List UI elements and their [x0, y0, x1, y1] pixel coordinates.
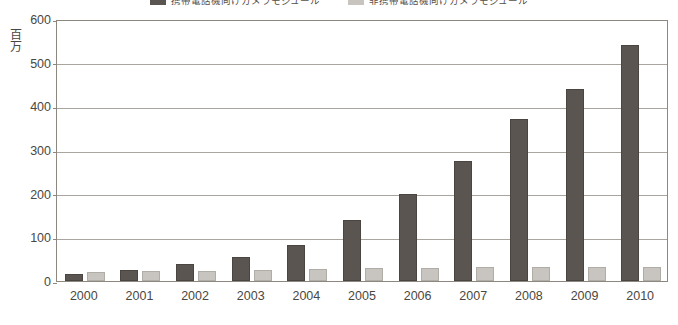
bar-non-mobile: [254, 270, 272, 281]
bar-group: [391, 21, 447, 281]
legend-swatch-icon: [348, 0, 364, 5]
bar-non-mobile: [588, 267, 606, 281]
legend-item-series-1: 携帯電話機向けカメラモジュール: [150, 0, 320, 6]
x-axis-tick-label: 2005: [334, 288, 390, 304]
y-axis-tick-label: 200: [17, 189, 51, 201]
bar-non-mobile: [365, 268, 383, 281]
y-axis-tick-label: 300: [17, 145, 51, 157]
bar-mobile: [287, 245, 305, 281]
bar-mobile: [510, 119, 528, 281]
chart-legend: 携帯電話機向けカメラモジュール 非携帯電話機向けカメラモジュール: [0, 0, 678, 6]
bar-group: [502, 21, 558, 281]
x-axis-tick-label: 2006: [390, 288, 446, 304]
x-axis-tick-label: 2003: [223, 288, 279, 304]
x-axis-ticks: 2000200120022003200420052006200720082009…: [56, 288, 668, 312]
y-axis-tick-label: 0: [17, 276, 51, 288]
y-axis-tick-label: 400: [17, 101, 51, 113]
bar-mobile: [65, 274, 83, 281]
bar-mobile: [232, 257, 250, 281]
y-axis-tick-label: 100: [17, 232, 51, 244]
bar-group: [113, 21, 169, 281]
bar-non-mobile: [532, 267, 550, 281]
bar-non-mobile: [421, 268, 439, 281]
y-axis-tick-label: 500: [17, 58, 51, 70]
x-axis-tick-label: 2002: [167, 288, 223, 304]
bar-group: [558, 21, 614, 281]
plot-area: 0100200300400500600: [56, 20, 668, 282]
bar-non-mobile: [142, 271, 160, 281]
bar-mobile: [454, 161, 472, 281]
legend-swatch-icon: [150, 0, 166, 5]
x-axis-tick-label: 2007: [445, 288, 501, 304]
bar-mobile: [399, 194, 417, 281]
bar-group: [57, 21, 113, 281]
bar-group: [335, 21, 391, 281]
bar-non-mobile: [198, 271, 216, 281]
bar-non-mobile: [476, 267, 494, 281]
bar-mobile: [621, 45, 639, 281]
bar-group: [168, 21, 224, 281]
x-axis-tick-label: 2004: [278, 288, 334, 304]
legend-item-label: 携帯電話機向けカメラモジュール: [171, 0, 320, 6]
bar-mobile: [343, 220, 361, 281]
bar-group: [446, 21, 502, 281]
bar-non-mobile: [309, 269, 327, 281]
legend-item-series-2: 非携帯電話機向けカメラモジュール: [348, 0, 528, 6]
bar-mobile: [120, 270, 138, 281]
bar-group: [280, 21, 336, 281]
bar-mobile: [566, 89, 584, 281]
legend-item-label: 非携帯電話機向けカメラモジュール: [369, 0, 528, 6]
bar-mobile: [176, 264, 194, 281]
bar-group: [224, 21, 280, 281]
x-axis-tick-label: 2000: [56, 288, 112, 304]
x-axis-tick-label: 2010: [612, 288, 668, 304]
x-axis-tick-label: 2008: [501, 288, 557, 304]
y-axis-tick-mark: [53, 283, 57, 284]
bar-group: [613, 21, 669, 281]
y-axis-title: 百万: [4, 28, 20, 52]
bar-series-container: [57, 21, 667, 281]
bar-non-mobile: [87, 272, 105, 281]
bar-non-mobile: [643, 267, 661, 281]
y-axis-tick-label: 600: [17, 14, 51, 26]
x-axis-tick-label: 2001: [111, 288, 167, 304]
x-axis-tick-label: 2009: [557, 288, 613, 304]
